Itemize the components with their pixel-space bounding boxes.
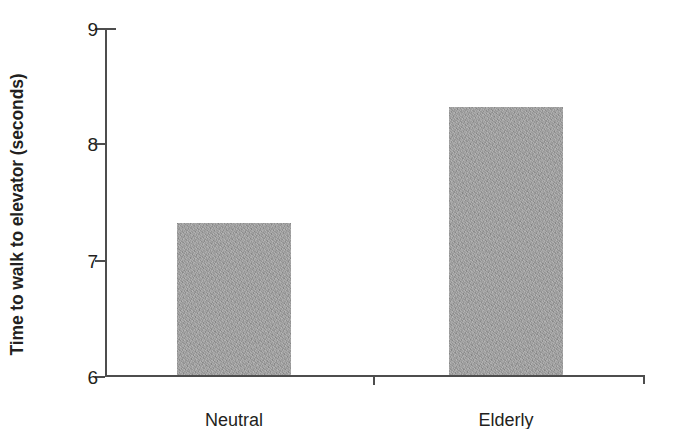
x-axis-end-tick xyxy=(643,375,645,384)
x-axis-line xyxy=(105,375,645,377)
x-axis-category-divider-tick xyxy=(373,375,375,385)
x-axis-label-elderly: Elderly xyxy=(478,411,533,429)
y-axis-top-cap xyxy=(105,28,116,30)
bar-chart-figure: Time to walk to elevator (seconds) 6 7 8… xyxy=(0,0,683,429)
y-tick-label-9: 9 xyxy=(87,20,98,39)
y-tick-label-7: 7 xyxy=(87,251,98,270)
y-tick-label-8: 8 xyxy=(87,135,98,154)
y-axis-title: Time to walk to elevator (seconds) xyxy=(0,0,34,429)
y-tick-label-6: 6 xyxy=(87,368,98,387)
bar-elderly[interactable] xyxy=(449,107,563,375)
x-axis-label-neutral: Neutral xyxy=(205,411,263,429)
plot-area: 6 7 8 9 Neutral Elderly xyxy=(105,28,645,377)
bar-neutral[interactable] xyxy=(177,223,291,375)
y-axis-line xyxy=(105,28,107,377)
